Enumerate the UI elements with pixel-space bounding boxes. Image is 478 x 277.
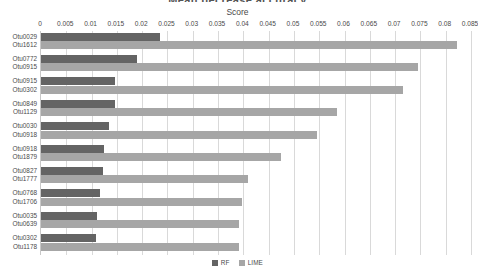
bar-lime xyxy=(41,243,239,251)
x-tick-label: 0.08 xyxy=(438,20,451,27)
y-tick-label-rf: Otu0302 xyxy=(12,235,37,241)
y-tick-label-lime: Otu1178 xyxy=(13,244,37,250)
x-axis-tick-labels: 00.0050.010.0150.020.0250.030.0350.040.0… xyxy=(0,20,475,31)
y-tick-label-lime: Otu1706 xyxy=(12,199,37,205)
bar-rf xyxy=(41,145,104,153)
y-tick-label-lime: Otu0918 xyxy=(12,132,37,138)
bar-rf xyxy=(41,234,96,242)
bar-lime xyxy=(41,131,317,139)
x-tick-label: 0.045 xyxy=(259,20,276,27)
y-tick-label-lime: Otu1777 xyxy=(12,176,37,182)
bar-lime xyxy=(41,108,337,116)
y-tick-label-lime: Otu0915 xyxy=(12,64,37,70)
x-tick-label: 0 xyxy=(38,20,42,27)
legend-item: RF xyxy=(212,259,229,266)
bar-rf xyxy=(41,55,137,63)
bar-lime xyxy=(41,175,248,183)
y-tick-label-lime: Otu1879 xyxy=(12,154,37,160)
bar-rf xyxy=(41,33,160,41)
x-tick-label: 0.02 xyxy=(135,20,148,27)
bar-rf xyxy=(41,212,97,220)
plot-area xyxy=(40,31,470,255)
x-tick-label: 0.05 xyxy=(287,20,300,27)
chart-title: Mean decrease accuracy xyxy=(0,0,475,2)
y-axis-tick-labels: Otu0029Otu1612Otu0772Otu0915Otu0915Otu03… xyxy=(0,31,39,255)
x-tick-label: 0.035 xyxy=(209,20,226,27)
y-tick-label-lime: Otu1129 xyxy=(13,109,37,115)
bar-rf xyxy=(41,100,115,108)
legend-item: LIME xyxy=(239,259,262,266)
bar-lime xyxy=(41,63,418,71)
x-tick-label: 0.055 xyxy=(310,20,327,27)
bar-lime xyxy=(41,41,457,49)
bar-lime xyxy=(41,220,239,228)
y-tick-label-rf: Otu0030 xyxy=(12,123,37,129)
x-tick-label: 0.025 xyxy=(158,20,175,27)
x-tick-label: 0.03 xyxy=(185,20,198,27)
legend-swatch-rf-icon xyxy=(212,260,218,266)
bar-lime xyxy=(41,153,281,161)
x-tick-label: 0.015 xyxy=(108,20,125,27)
y-tick-label-rf: Otu0849 xyxy=(12,101,37,107)
x-tick-label: 0.07 xyxy=(388,20,401,27)
y-tick-label-rf: Otu0768 xyxy=(12,190,37,196)
y-tick-label-rf: Otu0029 xyxy=(12,34,37,40)
y-tick-label-rf: Otu0035 xyxy=(12,213,37,219)
y-tick-label-lime: Otu0639 xyxy=(12,221,37,227)
x-tick-label: 0.005 xyxy=(57,20,74,27)
bar-rf xyxy=(41,189,100,197)
x-tick-label: 0.04 xyxy=(236,20,249,27)
gridline xyxy=(471,31,472,255)
x-tick-label: 0.065 xyxy=(361,20,378,27)
x-axis-title: Score xyxy=(0,7,475,17)
y-tick-label-rf: Otu0915 xyxy=(12,78,37,84)
y-tick-label-rf: Otu0827 xyxy=(12,168,37,174)
chart-legend: RFLIME xyxy=(0,259,475,266)
gridline xyxy=(446,31,447,255)
y-tick-label-rf: Otu0772 xyxy=(12,56,37,62)
x-tick-label: 0.06 xyxy=(337,20,350,27)
bar-lime xyxy=(41,86,403,94)
x-tick-label: 0.075 xyxy=(411,20,428,27)
legend-swatch-lime-icon xyxy=(239,260,245,266)
bar-rf xyxy=(41,122,109,130)
bar-rf xyxy=(41,77,115,85)
y-tick-label-rf: Otu0918 xyxy=(12,146,37,152)
x-tick-label: 0.085 xyxy=(462,20,478,27)
bar-rf xyxy=(41,167,103,175)
gridline xyxy=(420,31,421,255)
y-tick-label-lime: Otu0302 xyxy=(12,87,37,93)
bar-lime xyxy=(41,198,242,206)
x-tick-label: 0.01 xyxy=(84,20,97,27)
legend-label: RF xyxy=(221,259,230,266)
legend-label: LIME xyxy=(248,259,263,266)
y-tick-label-lime: Otu1612 xyxy=(12,42,37,48)
